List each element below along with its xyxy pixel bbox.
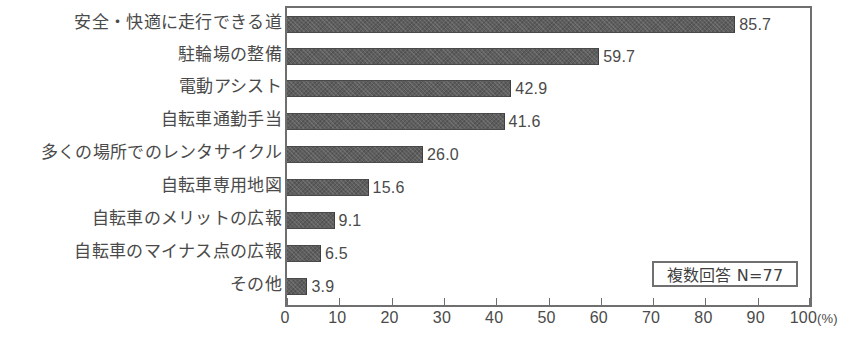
bar bbox=[287, 80, 511, 97]
bar-value-label: 85.7 bbox=[739, 16, 771, 33]
bar-value-label: 42.9 bbox=[515, 80, 547, 97]
annotation-text: 複数回答 N=77 bbox=[667, 262, 784, 286]
x-axis-tick-mark bbox=[809, 298, 810, 305]
category-label: 駐輪場の整備 bbox=[2, 46, 282, 63]
x-axis-tick-mark bbox=[392, 298, 393, 305]
x-axis-tick-label: 60 bbox=[590, 310, 608, 326]
x-axis-tick-mark bbox=[758, 298, 759, 305]
x-axis-tick-label: 90 bbox=[747, 310, 765, 326]
x-axis-tick-mark bbox=[287, 298, 288, 305]
category-label: 自転車のメリットの広報 bbox=[2, 210, 282, 227]
x-axis-tick-label: 70 bbox=[642, 310, 660, 326]
category-label: 自転車通勤手当 bbox=[2, 111, 282, 128]
category-label: 安全・快適に走行できる道 bbox=[2, 14, 282, 31]
x-axis-tick-label: 80 bbox=[694, 310, 712, 326]
annotation-box: 複数回答 N=77 bbox=[652, 261, 798, 287]
category-label: 自転車のマイナス点の広報 bbox=[2, 243, 282, 260]
bar-value-label: 15.6 bbox=[373, 179, 405, 196]
bar-value-label: 6.5 bbox=[325, 245, 348, 262]
category-label: 電動アシスト bbox=[2, 78, 282, 95]
x-axis-tick-label: 0 bbox=[280, 310, 289, 326]
category-label: 自転車専用地図 bbox=[2, 177, 282, 194]
bar-value-label: 26.0 bbox=[427, 146, 459, 163]
x-axis-tick-mark bbox=[601, 298, 602, 305]
bar bbox=[287, 212, 335, 229]
x-axis-tick-label: 30 bbox=[433, 310, 451, 326]
x-axis-tick-mark bbox=[339, 298, 340, 305]
x-axis-tick-label: 100(%) bbox=[790, 310, 838, 327]
bar bbox=[287, 113, 505, 130]
bar-value-label: 41.6 bbox=[509, 113, 541, 130]
bar bbox=[287, 48, 599, 65]
x-axis-tick-mark bbox=[444, 298, 445, 305]
bar bbox=[287, 146, 423, 163]
bar-value-label: 3.9 bbox=[311, 278, 334, 295]
bar-chart: 安全・快適に走行できる道 駐輪場の整備 電動アシスト 自転車通勤手当 多くの場所… bbox=[0, 0, 860, 339]
bar-value-label: 9.1 bbox=[339, 212, 362, 229]
x-axis-tick-label: 50 bbox=[537, 310, 555, 326]
x-axis-tick-label: 20 bbox=[380, 310, 398, 326]
x-axis-tick-mark bbox=[496, 298, 497, 305]
bar bbox=[287, 245, 321, 262]
bar-value-label: 59.7 bbox=[603, 48, 635, 65]
x-axis-tick-label: 10 bbox=[328, 310, 346, 326]
x-axis-tick-mark bbox=[549, 298, 550, 305]
x-axis-unit-label: (%) bbox=[817, 311, 838, 326]
x-axis-tick-mark bbox=[705, 298, 706, 305]
category-label: その他 bbox=[2, 276, 282, 293]
category-label: 多くの場所でのレンタサイクル bbox=[2, 144, 282, 161]
x-axis-tick-mark bbox=[653, 298, 654, 305]
bar bbox=[287, 16, 735, 33]
x-axis-tick-label: 40 bbox=[485, 310, 503, 326]
bar bbox=[287, 179, 369, 196]
bar bbox=[287, 278, 307, 295]
